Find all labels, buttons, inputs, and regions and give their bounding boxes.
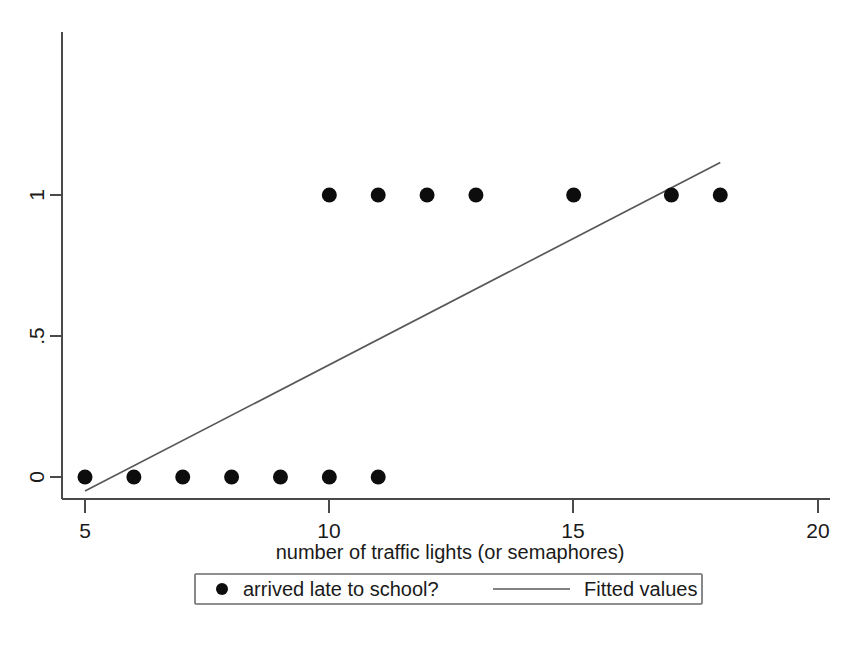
data-point xyxy=(175,470,190,485)
data-point xyxy=(224,470,239,485)
data-point xyxy=(664,188,679,203)
fitted-values-line xyxy=(85,163,720,492)
data-point xyxy=(273,470,288,485)
legend-marker-scatter-icon xyxy=(216,583,228,595)
y-tick-label-0point5: .5 xyxy=(25,327,48,345)
x-axis-title: number of traffic lights (or semaphores) xyxy=(276,541,625,563)
y-tick-label-1: 1 xyxy=(25,189,48,201)
data-point xyxy=(468,188,483,203)
data-point-markers xyxy=(78,188,728,485)
legend-label-scatter: arrived late to school? xyxy=(243,578,439,600)
data-point xyxy=(371,188,386,203)
legend-label-line: Fitted values xyxy=(584,578,697,600)
data-point xyxy=(371,470,386,485)
x-axis-ticks xyxy=(85,499,818,513)
data-point xyxy=(420,188,435,203)
x-tick-label-20: 20 xyxy=(806,519,829,542)
chart-legend: arrived late to school? Fitted values xyxy=(195,574,702,604)
x-tick-label-10: 10 xyxy=(317,519,340,542)
data-point xyxy=(78,470,93,485)
scatter-plot-figure: 1 .5 0 5 10 15 20 number of traffic ligh… xyxy=(0,0,863,647)
plot-canvas: 1 .5 0 5 10 15 20 number of traffic ligh… xyxy=(0,0,863,647)
data-point xyxy=(126,470,141,485)
x-axis-tick-labels: 5 10 15 20 xyxy=(79,519,830,542)
x-tick-label-5: 5 xyxy=(79,519,91,542)
x-tick-label-15: 15 xyxy=(561,519,584,542)
fitted-values-segment xyxy=(85,163,720,492)
data-point xyxy=(322,470,337,485)
y-axis-tick-labels: 1 .5 0 xyxy=(25,189,48,483)
data-point xyxy=(322,188,337,203)
y-axis-ticks xyxy=(50,195,62,477)
data-point xyxy=(713,188,728,203)
data-point xyxy=(566,188,581,203)
y-tick-label-0: 0 xyxy=(25,471,48,483)
